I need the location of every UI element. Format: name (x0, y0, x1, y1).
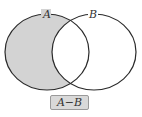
set-label-a: A (42, 8, 51, 21)
caption-label: A−B (50, 95, 89, 110)
caption-text: A−B (57, 96, 82, 109)
set-label-b: B (88, 8, 97, 21)
